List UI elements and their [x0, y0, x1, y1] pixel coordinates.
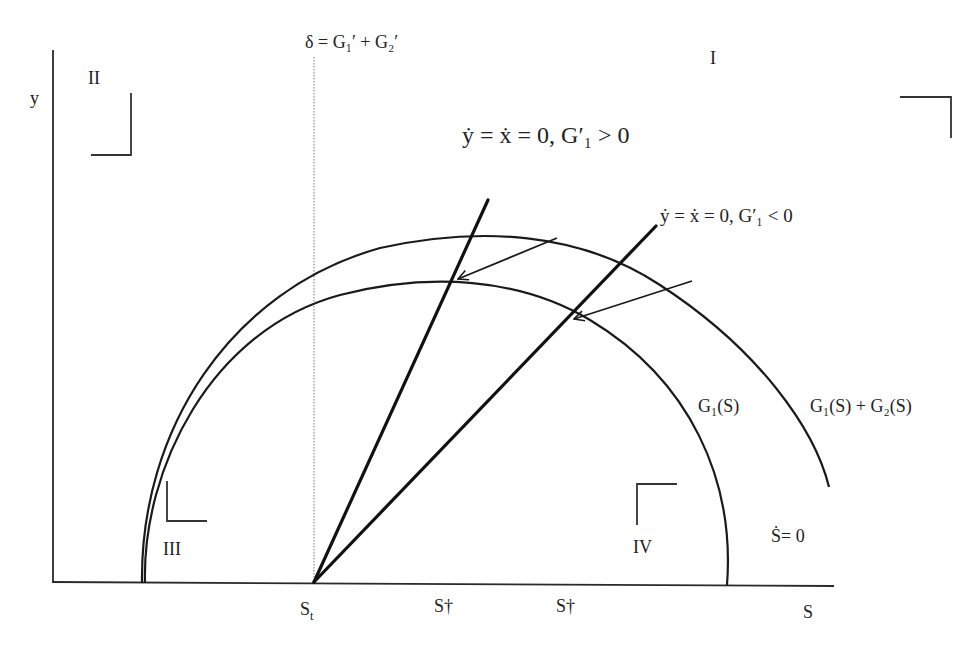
quadrant-ii-marker	[91, 93, 131, 155]
isocline-positive	[314, 200, 488, 582]
tick-sdagger-2: S†	[556, 596, 575, 616]
quadrant-iv-marker	[637, 484, 677, 525]
isocline-negative	[314, 226, 656, 582]
quadrant-iv-label: IV	[633, 537, 652, 557]
x-axis	[52, 582, 834, 586]
tick-st: St	[300, 599, 314, 623]
quadrant-i-label: I	[710, 48, 716, 68]
s-dot-zero-label: Ṡ= 0	[771, 526, 805, 546]
quadrant-iii-marker	[167, 481, 207, 521]
isocline-positive-label: ẏ = ẋ = 0, G′₁ > 0	[462, 122, 630, 148]
quadrant-i-marker	[900, 97, 951, 138]
isocline-negative-label: ẏ = ẋ = 0, G′₁ < 0	[660, 205, 793, 226]
delta-label: δ = G₁′ + G₂′	[305, 32, 398, 52]
y-axis-label: y	[30, 88, 39, 108]
x-axis-label: S	[803, 602, 813, 622]
quadrant-iii-label: III	[163, 539, 181, 559]
arrow-2	[574, 281, 692, 319]
phase-diagram: y S δ = G₁′ + G₂′ II I III IV ẏ = ẋ = 0,…	[0, 0, 960, 645]
tick-sdagger-1: S†	[434, 596, 453, 616]
arrow-1	[458, 238, 557, 279]
quadrant-ii-label: II	[88, 68, 100, 88]
curve-g1-plus-g2-label: G₁(S) + G₂(S)	[810, 396, 912, 417]
curve-g1-label: G₁(S)	[698, 396, 739, 417]
